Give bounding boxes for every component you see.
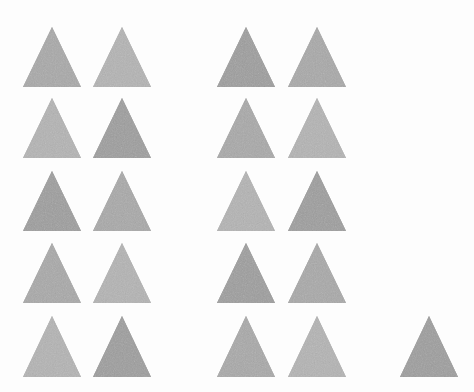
triangle-texture-overlay (93, 316, 151, 377)
triangle-texture-overlay (93, 171, 151, 231)
triangle-texture-overlay (93, 27, 151, 87)
triangle-texture-overlay (288, 171, 346, 231)
triangle-layer (0, 0, 474, 392)
triangle-texture-overlay (93, 98, 151, 158)
triangle-texture-overlay (217, 243, 275, 303)
triangle-texture-overlay (23, 316, 81, 377)
triangle-texture-overlay (288, 243, 346, 303)
triangle-texture-overlay (23, 98, 81, 158)
triangle-texture-overlay (217, 316, 275, 377)
triangle-texture-overlay (93, 243, 151, 303)
triangle-texture-overlay (400, 316, 458, 377)
triangle-texture-overlay (23, 171, 81, 231)
triangle-texture-overlay (217, 98, 275, 158)
triangle-texture-overlay (288, 98, 346, 158)
triangle-array-canvas (0, 0, 474, 392)
triangle-texture-overlay (288, 316, 346, 377)
triangle-texture-overlay (23, 27, 81, 87)
triangle-texture-overlay (217, 27, 275, 87)
triangle-texture-overlay (217, 171, 275, 231)
triangle-texture-overlay (23, 243, 81, 303)
triangle-texture-overlay (288, 27, 346, 87)
